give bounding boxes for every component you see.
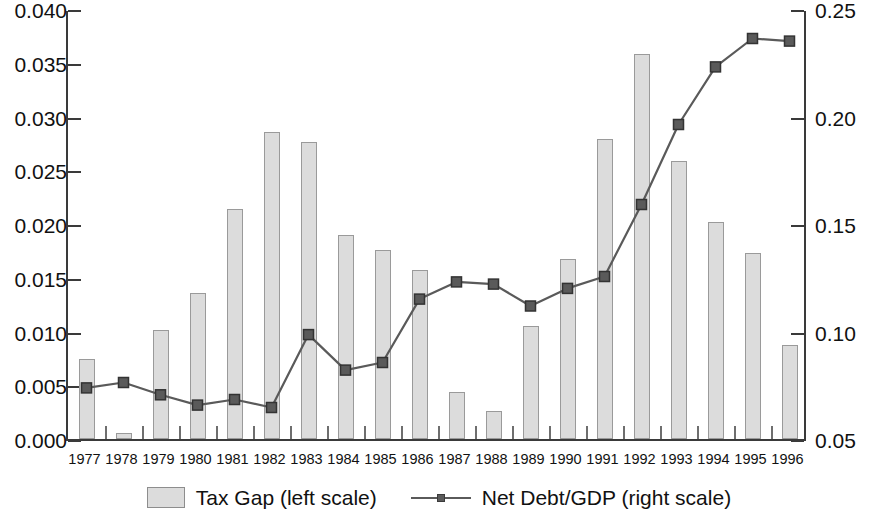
line-marker-1996: [785, 36, 795, 46]
x-axis-label-1983: 1983: [288, 452, 325, 467]
line-marker-1992: [637, 200, 647, 210]
line-marker-1991: [600, 272, 610, 282]
x-axis-label-1995: 1995: [732, 452, 769, 467]
plot-area: [66, 11, 806, 441]
left-axis-tick-label: 0.025: [14, 161, 67, 182]
line-marker-1986: [415, 294, 425, 304]
left-axis-tick-label: 0.005: [14, 376, 67, 397]
legend-item-net-debt-gdp: Net Debt/GDP (right scale): [411, 487, 731, 508]
x-axis-label-1990: 1990: [547, 452, 584, 467]
x-axis-label-1977: 1977: [66, 452, 103, 467]
x-axis-label-1980: 1980: [177, 452, 214, 467]
left-axis-tick-label: 0.015: [14, 269, 67, 290]
line-marker-1981: [230, 395, 240, 405]
x-axis-label-1994: 1994: [695, 452, 732, 467]
legend-item-tax-gap: Tax Gap (left scale): [147, 487, 377, 508]
chart-figure: 0.0000.0050.0100.0150.0200.0250.0300.035…: [0, 0, 878, 519]
x-axis-label-1989: 1989: [510, 452, 547, 467]
x-axis-label-1987: 1987: [436, 452, 473, 467]
line-marker-1990: [563, 283, 573, 293]
left-axis-tick-label: 0.010: [14, 323, 67, 344]
right-axis-tick-label: 0.20: [815, 108, 856, 129]
x-axis-label-1984: 1984: [325, 452, 362, 467]
right-axis-tick-label: 0.25: [815, 0, 856, 21]
line-marker-1980: [193, 400, 203, 410]
line-marker-1979: [156, 390, 166, 400]
x-axis-label-1986: 1986: [399, 452, 436, 467]
left-axis-tick-label: 0.030: [14, 108, 67, 129]
x-axis-label-1979: 1979: [140, 452, 177, 467]
line-marker-1993: [674, 120, 684, 130]
x-axis-label-1988: 1988: [473, 452, 510, 467]
x-axis-label-1993: 1993: [658, 452, 695, 467]
line-marker-1985: [378, 358, 388, 368]
right-axis-tick-label: 0.15: [815, 215, 856, 236]
line-marker-1994: [711, 62, 721, 72]
legend-label-tax-gap: Tax Gap (left scale): [196, 487, 377, 508]
line-marker-1989: [526, 301, 536, 311]
line-marker-1978: [119, 378, 129, 388]
line-marker-1982: [267, 403, 277, 413]
left-axis-tick-label: 0.040: [14, 0, 67, 21]
line-marker-1987: [452, 277, 462, 287]
x-axis-label-1996: 1996: [769, 452, 806, 467]
net-debt-gdp-line: [87, 39, 790, 408]
line-series-net-debt-gdp: [68, 11, 808, 441]
line-marker-1977: [82, 383, 92, 393]
x-axis-label-1982: 1982: [251, 452, 288, 467]
line-marker-1995: [748, 34, 758, 44]
right-axis-tick-label: 0.10: [815, 323, 856, 344]
line-marker-1988: [489, 279, 499, 289]
legend-label-net-debt-gdp: Net Debt/GDP (right scale): [482, 487, 731, 508]
chart-legend: Tax Gap (left scale) Net Debt/GDP (right…: [0, 487, 878, 508]
x-axis-label-1978: 1978: [103, 452, 140, 467]
line-marker-1983: [304, 330, 314, 340]
line-marker-1984: [341, 365, 351, 375]
x-axis-label-1991: 1991: [584, 452, 621, 467]
left-axis-tick-label: 0.000: [14, 430, 67, 451]
x-axis-label-1992: 1992: [621, 452, 658, 467]
x-axis-label-1981: 1981: [214, 452, 251, 467]
legend-swatch-icon: [147, 487, 185, 508]
left-axis-tick-label: 0.035: [14, 54, 67, 75]
legend-line-marker-icon: [411, 492, 471, 504]
right-axis-tick-label: 0.05: [815, 430, 856, 451]
left-axis-tick-label: 0.020: [14, 215, 67, 236]
x-axis-label-1985: 1985: [362, 452, 399, 467]
